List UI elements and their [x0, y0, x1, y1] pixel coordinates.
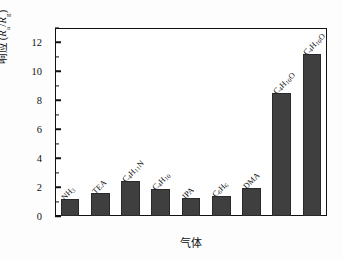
y-tick-label: 2 [37, 182, 42, 193]
y-major-tick [55, 42, 61, 44]
bar [303, 54, 322, 216]
y-tick-label: 8 [37, 95, 42, 106]
y-minor-tick [55, 85, 59, 86]
y-major-tick [55, 71, 61, 73]
y-axis-title-den-sub: g [4, 13, 12, 17]
bar [242, 188, 261, 216]
y-major-tick [55, 215, 61, 217]
y-axis-ticks: 024681012 [0, 28, 50, 216]
bar [91, 193, 110, 216]
x-axis-title: 气体 [55, 234, 327, 250]
y-axis-title-denominator: R [0, 17, 8, 24]
y-minor-tick [55, 172, 59, 173]
y-minor-tick [55, 114, 59, 115]
y-major-tick [55, 157, 61, 159]
y-tick-label: 10 [32, 66, 43, 77]
bars-layer: NH3TEAC4H11NC4H10IPAC6H6DMAC4H10OC4H10O [55, 28, 327, 216]
y-tick-label: 4 [37, 153, 42, 164]
chart-figure: 响应 (Ra/Rg) 024681012 NH3TEAC4H11NC4H10IP… [0, 0, 343, 261]
y-tick-label: 6 [37, 124, 42, 135]
y-major-tick [55, 100, 61, 102]
y-minor-tick [55, 143, 59, 144]
bar [272, 93, 291, 216]
y-tick-label: 0 [37, 211, 42, 222]
y-axis-title-close-paren: ) [0, 10, 8, 14]
bar [151, 189, 170, 216]
y-tick-label: 12 [32, 37, 43, 48]
y-minor-tick [55, 201, 59, 202]
bar [121, 181, 140, 216]
y-major-tick [55, 128, 61, 130]
y-axis-title-slash: / [0, 24, 8, 27]
y-major-tick [55, 186, 61, 188]
bar [182, 198, 201, 216]
y-minor-tick [55, 27, 59, 28]
bar [212, 196, 231, 216]
y-minor-tick [55, 56, 59, 57]
bar [61, 199, 80, 216]
